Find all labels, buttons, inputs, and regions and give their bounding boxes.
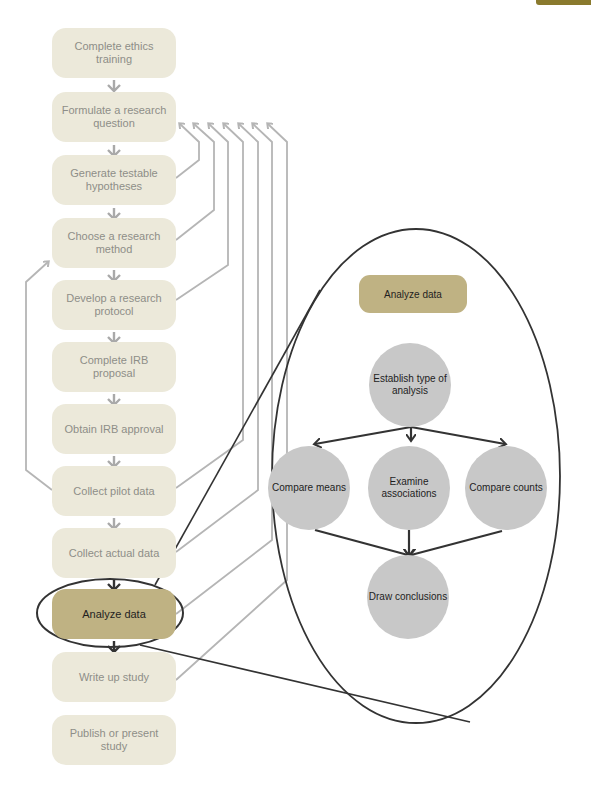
- step-collect-pilot-data: Collect pilot data: [52, 466, 176, 516]
- node-compare-counts: Compare counts: [465, 446, 547, 530]
- node-compare-means: Compare means: [268, 446, 350, 530]
- node-examine-associations: Examine associations: [368, 446, 450, 530]
- node-draw-conclusions: Draw conclusions: [367, 555, 449, 639]
- callout-title: Analyze data: [359, 275, 467, 313]
- step-obtain-irb-approval: Obtain IRB approval: [52, 404, 176, 454]
- node-establish-analysis: Establish type of analysis: [369, 343, 451, 427]
- step-analyze-data: Analyze data: [52, 589, 176, 639]
- step-choose-method: Choose a research method: [52, 218, 176, 268]
- step-collect-actual-data: Collect actual data: [52, 528, 176, 578]
- step-write-up-study: Write up study: [52, 652, 176, 702]
- step-formulate-research-question: Formulate a research question: [52, 92, 176, 142]
- step-complete-irb-proposal: Complete IRB proposal: [52, 342, 176, 392]
- step-develop-protocol: Develop a research protocol: [52, 280, 176, 330]
- step-generate-hypotheses: Generate testable hypotheses: [52, 155, 176, 205]
- step-publish-study: Publish or present study: [52, 715, 176, 765]
- step-complete-ethics-training: Complete ethics training: [52, 28, 176, 78]
